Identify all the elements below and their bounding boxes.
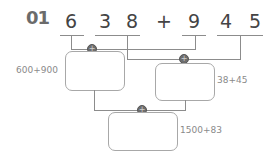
digit-left-hundreds: 6: [64, 11, 78, 31]
digit-right-ones: 5: [248, 11, 262, 31]
digit-right-hundreds: 9: [187, 11, 201, 31]
hint-box-3: 1500+83: [180, 124, 222, 136]
digit-right-tens: 4: [219, 11, 233, 31]
answer-box-3[interactable]: [108, 112, 178, 151]
digit-left-ones: 8: [125, 11, 139, 31]
answer-box-2[interactable]: [155, 63, 215, 101]
connector-9-down: [195, 35, 196, 49]
underline-group-38: [95, 35, 140, 36]
connector-box1-down: [94, 90, 95, 110]
connector-box2-down: [185, 100, 186, 110]
underline-group-9: [182, 35, 206, 36]
connector-38-down: [127, 35, 128, 59]
plus-operator: +: [156, 11, 172, 31]
hint-box-2: 38+45: [217, 74, 247, 86]
connector-45-down: [240, 35, 241, 59]
digit-left-tens: 3: [98, 11, 112, 31]
answer-box-1[interactable]: [65, 51, 125, 91]
connector-6-down: [71, 35, 72, 49]
hint-box-1: 600+900: [16, 64, 58, 76]
underline-group-6: [60, 35, 84, 36]
problem-number: 01: [26, 7, 49, 28]
